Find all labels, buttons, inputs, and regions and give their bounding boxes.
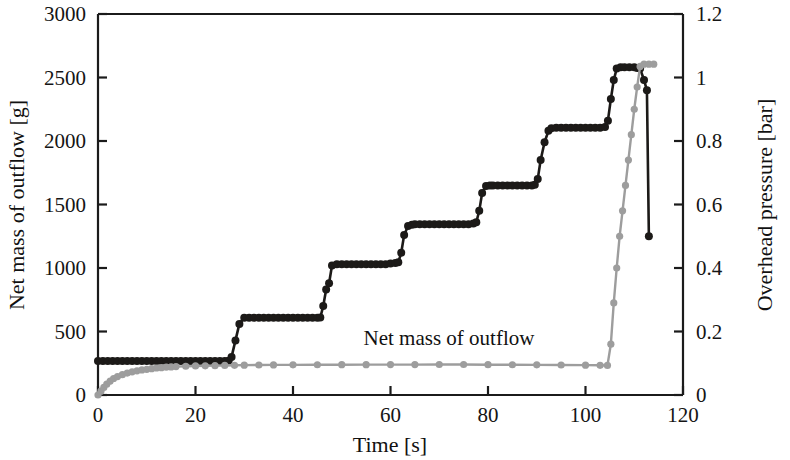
data-point [604, 117, 612, 125]
data-point [255, 361, 262, 368]
x-tick-label: 120 [667, 403, 699, 427]
data-point [472, 218, 480, 226]
chart-background [0, 0, 790, 460]
x-tick-label: 40 [283, 403, 304, 427]
data-point [202, 362, 209, 369]
data-point [211, 362, 218, 369]
data-point [604, 362, 611, 369]
y-right-tick-label: 1 [696, 66, 707, 90]
data-point [607, 341, 614, 348]
data-point [619, 207, 626, 214]
y-left-tick-label: 2500 [44, 66, 86, 90]
data-point [478, 189, 486, 197]
y-left-tick-label: 2000 [44, 129, 86, 153]
data-point [509, 361, 516, 368]
data-point [400, 231, 408, 239]
data-point [319, 302, 327, 310]
data-point [616, 233, 623, 240]
data-point [582, 362, 589, 369]
data-point [231, 362, 238, 369]
x-axis-title: Time [s] [353, 432, 427, 457]
data-point [622, 182, 629, 189]
data-point [241, 362, 248, 369]
data-point [314, 361, 321, 368]
data-point [316, 314, 324, 322]
chart-annotations: Net mass of outflow [364, 326, 536, 350]
y-axis-right-title: Overhead pressure [bar] [752, 99, 777, 312]
data-point [613, 264, 620, 271]
data-point [387, 361, 394, 368]
data-point [192, 362, 199, 369]
y-right-tick-label: 1.2 [696, 2, 722, 26]
data-point [289, 361, 296, 368]
x-tick-label: 100 [570, 403, 602, 427]
data-point [270, 361, 277, 368]
data-point [182, 363, 189, 370]
data-point [628, 131, 635, 138]
data-point [597, 362, 604, 369]
data-point [436, 361, 443, 368]
data-point [610, 299, 617, 306]
y-left-tick-label: 0 [76, 383, 87, 407]
data-point [325, 279, 333, 287]
chart-figure: 050010001500200025003000 00.20.40.60.811… [0, 0, 790, 460]
y-left-tick-label: 500 [55, 320, 87, 344]
data-point [631, 106, 638, 113]
y-left-tick-label: 1500 [44, 193, 86, 217]
data-point [537, 156, 545, 164]
y-right-tick-label: 0.4 [696, 256, 723, 280]
data-point [610, 76, 618, 84]
data-point [228, 353, 236, 361]
data-point [650, 61, 657, 68]
x-tick-label: 80 [478, 403, 499, 427]
data-point [541, 138, 549, 146]
x-tick-label: 0 [93, 403, 104, 427]
data-point [558, 361, 565, 368]
data-point [338, 361, 345, 368]
data-point [221, 362, 228, 369]
data-point [394, 258, 402, 266]
y-right-tick-label: 0.2 [696, 320, 722, 344]
y-left-tick-label: 3000 [44, 2, 86, 26]
data-point [363, 361, 370, 368]
data-point [534, 175, 542, 183]
data-point [634, 83, 641, 90]
y-right-tick-label: 0.6 [696, 193, 722, 217]
data-point [172, 363, 179, 370]
data-point [231, 336, 239, 344]
data-point [484, 361, 491, 368]
series-annotation: Net mass of outflow [364, 326, 536, 350]
y-left-tick-label: 1000 [44, 256, 86, 280]
data-point [640, 76, 648, 84]
data-point [625, 156, 632, 163]
y-right-tick-label: 0.8 [696, 129, 722, 153]
data-point [645, 232, 653, 240]
data-point [643, 86, 651, 94]
x-tick-label: 60 [380, 403, 401, 427]
x-tick-label: 20 [185, 403, 206, 427]
data-point [607, 95, 615, 103]
data-point [460, 361, 467, 368]
data-point [411, 361, 418, 368]
y-axis-left-title: Net mass of outflow [g] [4, 100, 29, 310]
data-point [397, 249, 405, 257]
data-point [475, 207, 483, 215]
data-point [533, 361, 540, 368]
